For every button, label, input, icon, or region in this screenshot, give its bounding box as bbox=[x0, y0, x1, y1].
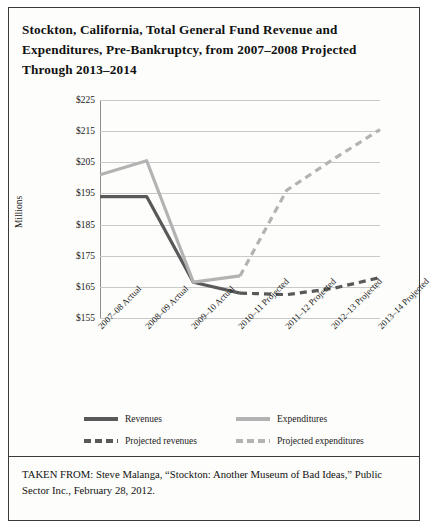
legend-swatch-expenditures-icon bbox=[236, 417, 270, 421]
series-lines bbox=[100, 100, 380, 318]
legend-item-revenues: Revenues bbox=[84, 414, 236, 424]
y-tick-label: $165 bbox=[76, 282, 95, 292]
legend-label-projected-expenditures: Projected expenditures bbox=[277, 436, 364, 446]
legend-row-2: Projected revenues Projected expenditure… bbox=[84, 430, 396, 452]
legend-item-projected-revenues: Projected revenues bbox=[84, 436, 236, 446]
legend-row-1: Revenues Expenditures bbox=[84, 408, 396, 430]
legend-label-revenues: Revenues bbox=[125, 414, 162, 424]
y-tick-label: $195 bbox=[76, 188, 95, 198]
series-line bbox=[100, 161, 240, 282]
chart-legend: Revenues Expenditures Projected revenues… bbox=[84, 408, 396, 452]
legend-swatch-projected-revenues-icon bbox=[84, 439, 118, 443]
series-line bbox=[240, 130, 380, 276]
y-axis-label: Millions bbox=[14, 172, 24, 252]
legend-label-projected-revenues: Projected revenues bbox=[125, 436, 197, 446]
y-tick-label: $205 bbox=[76, 157, 95, 167]
y-tick-label: $175 bbox=[76, 251, 95, 261]
y-tick-label: $225 bbox=[76, 95, 95, 105]
source-note: TAKEN FROM: Steve Malanga, “Stockton: An… bbox=[22, 466, 404, 498]
legend-swatch-revenues-icon bbox=[84, 417, 118, 421]
source-divider bbox=[9, 456, 419, 457]
legend-item-expenditures: Expenditures bbox=[236, 414, 388, 424]
plot-region: $155$165$175$185$195$205$215$225 2007–08… bbox=[100, 100, 380, 318]
y-tick-label: $185 bbox=[76, 220, 95, 230]
y-tick-label: $215 bbox=[76, 126, 95, 136]
legend-swatch-projected-expenditures-icon bbox=[236, 439, 270, 443]
y-tick-label: $155 bbox=[76, 313, 95, 323]
legend-item-projected-expenditures: Projected expenditures bbox=[236, 436, 388, 446]
figure-title: Stockton, California, Total General Fund… bbox=[22, 20, 402, 80]
legend-label-expenditures: Expenditures bbox=[277, 414, 327, 424]
chart-area: Millions $155$165$175$185$195$205$215$22… bbox=[22, 92, 394, 362]
